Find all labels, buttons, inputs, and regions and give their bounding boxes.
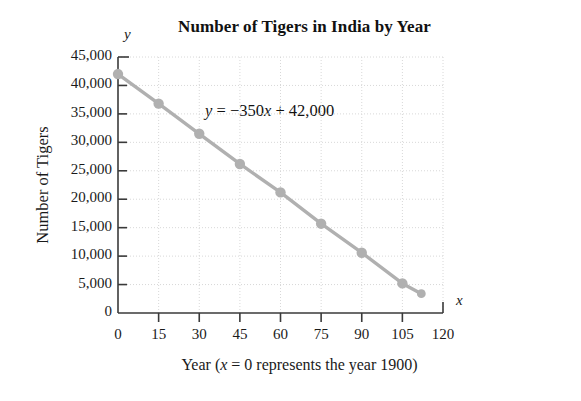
x-tick-label: 120 [418, 326, 468, 343]
data-point-4 [275, 187, 285, 197]
y-tick-label: 15,000 [38, 218, 112, 235]
data-point-6 [357, 248, 367, 258]
data-point-8 [417, 289, 426, 298]
y-tick-label: 0 [38, 303, 112, 320]
figure-container: Number of Tigers in India by Year y x Nu… [0, 0, 581, 401]
y-tick-label: 25,000 [38, 161, 112, 178]
y-tick-label: 40,000 [38, 75, 112, 92]
data-point-7 [397, 278, 407, 288]
tick-marks [118, 85, 402, 322]
y-tick-label: 5,000 [38, 275, 112, 292]
y-tick-label: 45,000 [38, 47, 112, 64]
axis-lines [118, 57, 443, 313]
data-point-0 [113, 69, 123, 79]
y-tick-label: 30,000 [38, 132, 112, 149]
y-tick-label: 20,000 [38, 189, 112, 206]
data-point-2 [194, 129, 204, 139]
y-tick-label: 35,000 [38, 104, 112, 121]
gridlines [118, 57, 443, 313]
data-point-5 [316, 218, 326, 228]
data-point-3 [235, 159, 245, 169]
data-point-1 [153, 98, 163, 108]
y-tick-label: 10,000 [38, 246, 112, 263]
data-line [118, 74, 421, 294]
